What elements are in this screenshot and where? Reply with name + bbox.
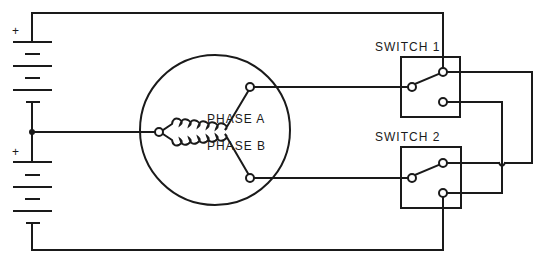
switch-2-lever [415, 164, 441, 175]
switch-1-common [408, 83, 416, 91]
switch-1-label: SWITCH 1 [375, 40, 440, 54]
switch-2: SWITCH 2 [375, 130, 461, 208]
circuit-diagram: + + PHASE A PHASE B SWIT [0, 0, 544, 268]
switch-1-throw-a [439, 68, 447, 76]
switch-1-lever [415, 73, 441, 84]
switch-1-throw-b [439, 98, 447, 106]
switch-2-label: SWITCH 2 [375, 130, 440, 144]
switch-2-throw-a [439, 159, 447, 167]
phase-a-terminal [246, 83, 254, 91]
motor-common-terminal [155, 128, 163, 136]
battery-top-plus-label: + [12, 24, 20, 38]
switch-2-throw-b [439, 189, 447, 197]
phase-b-terminal [246, 174, 254, 182]
motor: PHASE A PHASE B [140, 55, 290, 205]
battery-bottom-plus-label: + [12, 145, 20, 159]
switch-1: SWITCH 1 [375, 40, 460, 117]
phase-b-label: PHASE B [207, 139, 266, 153]
switch-2-common [408, 174, 416, 182]
phase-a-label: PHASE A [207, 112, 265, 126]
